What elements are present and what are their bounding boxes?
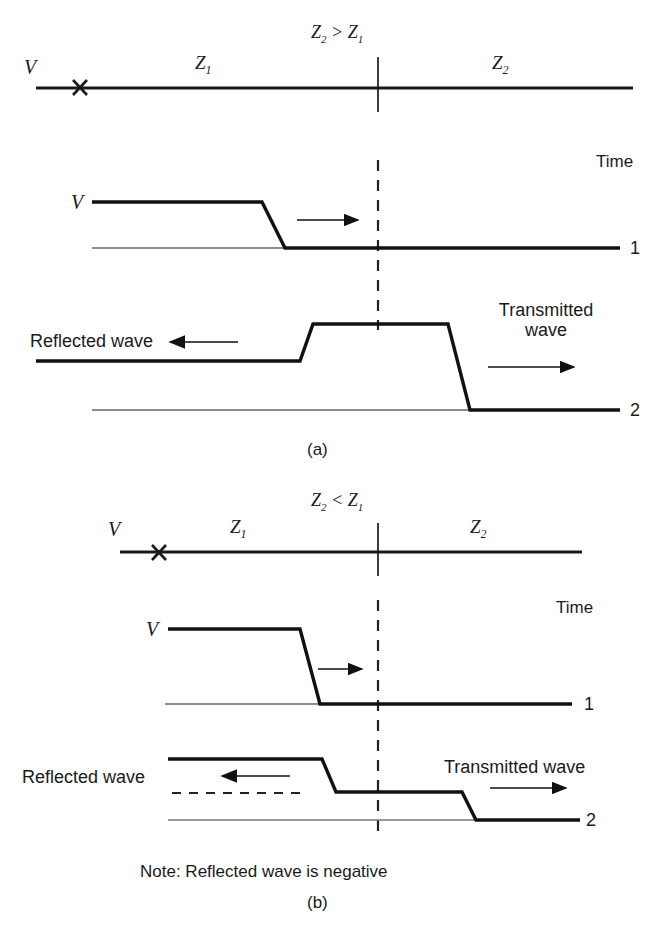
panel-b-source-label: V bbox=[108, 518, 120, 540]
panel-b-line-diagram bbox=[120, 523, 582, 576]
z2-subscript: 2 bbox=[503, 63, 509, 77]
relation-right-symbol-b: Z bbox=[348, 490, 358, 510]
panel-a-impedance-relation: Z2 > Z1 bbox=[311, 22, 363, 45]
panel-b-reflected-wave-label: Reflected wave bbox=[22, 767, 145, 787]
relation-right-subscript-b: 1 bbox=[358, 501, 364, 513]
panel-a-trace-1-time-label: 1 bbox=[630, 238, 640, 258]
relation-operator: > bbox=[331, 22, 343, 42]
panel-a-reflected-wave-label: Reflected wave bbox=[30, 331, 153, 351]
panel-b-transmitted-wave-label: Transmitted wave bbox=[444, 757, 585, 777]
panel-b-segment-left-label: Z1 bbox=[230, 516, 247, 541]
z2-subscript-b: 2 bbox=[481, 527, 487, 541]
panel-a-trace-2-time-label: 2 bbox=[630, 400, 640, 420]
relation-right-symbol: Z bbox=[348, 22, 358, 42]
panel-a-line-diagram bbox=[36, 57, 633, 112]
panel-a-trace-1-waveform bbox=[92, 202, 620, 248]
relation-left-symbol-b: Z bbox=[311, 490, 321, 510]
panel-b-caption: (b) bbox=[307, 893, 328, 912]
relation-operator-b: < bbox=[331, 490, 343, 510]
relation-left-subscript-b: 2 bbox=[321, 501, 327, 513]
panel-a-source-label: V bbox=[24, 56, 36, 78]
relation-left-subscript: 2 bbox=[321, 33, 327, 45]
panel-b-trace-1-level-label: V bbox=[146, 618, 158, 640]
panel-b-trace-1 bbox=[165, 600, 572, 838]
panel-b-segment-right-label: Z2 bbox=[470, 516, 487, 541]
panel-a-time-axis-label: Time bbox=[596, 152, 633, 171]
panel-b-trace-2-time-label: 2 bbox=[586, 810, 596, 830]
panel-a-transmitted-wave-label: Transmitted wave bbox=[470, 300, 622, 340]
z1-subscript-b: 1 bbox=[241, 527, 247, 541]
panel-a-trace-1-level-label: V bbox=[71, 191, 83, 213]
panel-a-caption: (a) bbox=[307, 440, 328, 459]
panel-b-trace-1-waveform bbox=[168, 629, 572, 704]
z2-symbol: Z bbox=[492, 52, 503, 73]
z1-symbol-b: Z bbox=[230, 516, 241, 537]
z1-symbol: Z bbox=[195, 52, 206, 73]
z2-symbol-b: Z bbox=[470, 516, 481, 537]
panel-a-segment-right-label: Z2 bbox=[492, 52, 509, 77]
z1-subscript: 1 bbox=[206, 63, 212, 77]
figure-canvas bbox=[0, 0, 668, 936]
panel-a-segment-left-label: Z1 bbox=[195, 52, 212, 77]
panel-a-transmitted-wave-line1: Transmitted bbox=[470, 300, 622, 320]
panel-a-transmitted-wave-line2: wave bbox=[470, 320, 622, 340]
panel-b-trace-1-time-label: 1 bbox=[584, 694, 594, 714]
relation-left-symbol: Z bbox=[311, 22, 321, 42]
panel-b-note: Note: Reflected wave is negative bbox=[140, 862, 388, 881]
panel-b-time-axis-label: Time bbox=[556, 598, 593, 617]
relation-right-subscript: 1 bbox=[358, 33, 364, 45]
panel-b-impedance-relation: Z2 < Z1 bbox=[311, 490, 363, 513]
figure-root: Z2 > Z1 V Z1 Z2 Time V 1 Reflected wave … bbox=[0, 0, 668, 936]
